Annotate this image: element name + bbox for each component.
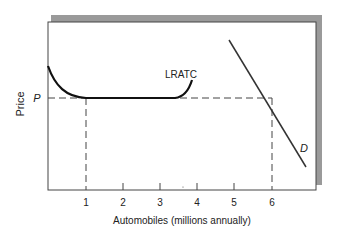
plot-frame (48, 22, 316, 190)
demand-label: D (300, 142, 308, 154)
x-tick-label: 2 (120, 197, 126, 208)
x-axis-label: Automobiles (millions annually) (113, 215, 251, 226)
axis-dot (182, 186, 183, 187)
frame-shadow-top (51, 15, 322, 22)
price-level-label: P (33, 92, 41, 104)
chart: 1 2 3 4 5 6 Automobiles (millions annual… (0, 0, 339, 236)
x-tick-label: 3 (157, 197, 163, 208)
x-tick-label: 6 (269, 197, 275, 208)
lratc-label: LRATC (165, 69, 197, 80)
x-tick-label: 1 (83, 197, 89, 208)
x-tick-label: 4 (194, 197, 200, 208)
x-tick-label: 5 (231, 197, 237, 208)
frame-shadow-right (316, 15, 322, 185)
y-axis-label: Price (14, 91, 26, 116)
